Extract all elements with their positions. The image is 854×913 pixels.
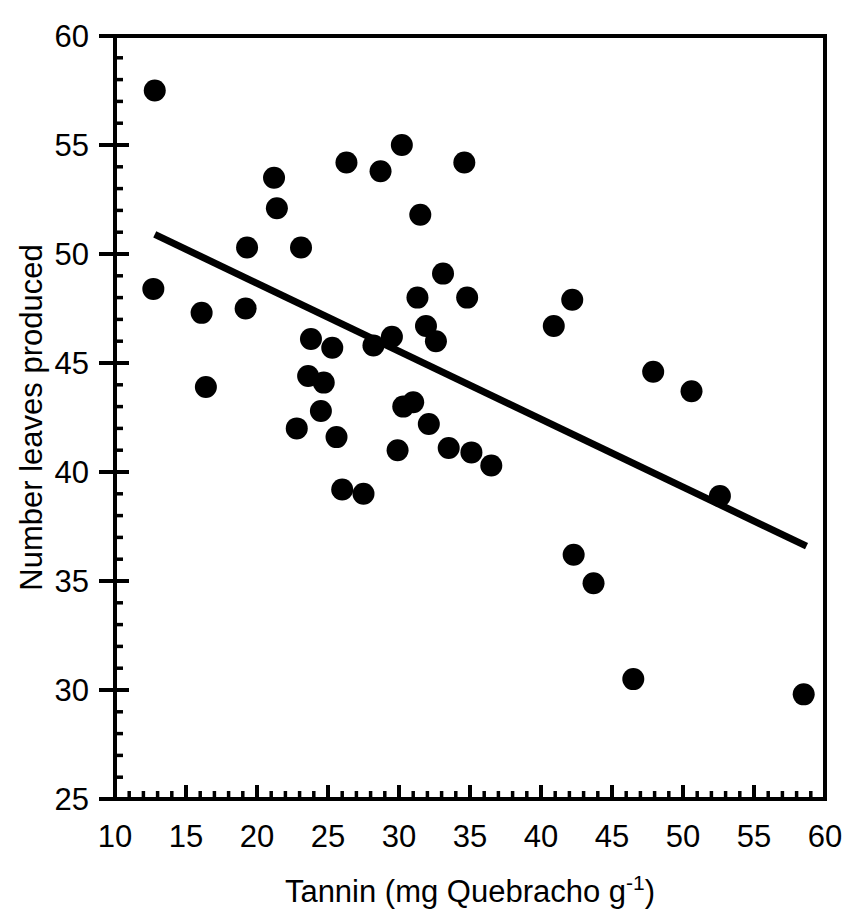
data-point xyxy=(543,315,565,337)
data-point xyxy=(409,204,431,226)
data-point xyxy=(793,683,815,705)
data-point xyxy=(236,236,258,258)
data-point xyxy=(402,391,424,413)
data-point xyxy=(622,668,644,690)
data-point xyxy=(142,278,164,300)
data-point xyxy=(425,330,447,352)
data-point xyxy=(191,302,213,324)
data-point xyxy=(370,160,392,182)
data-point xyxy=(432,263,454,285)
x-tick-label: 30 xyxy=(382,819,416,854)
data-point xyxy=(263,167,285,189)
y-tick-label: 55 xyxy=(55,128,89,163)
data-point xyxy=(709,485,731,507)
x-tick-label: 20 xyxy=(240,819,274,854)
data-point xyxy=(321,337,343,359)
data-point xyxy=(144,80,166,102)
trendline-segment xyxy=(155,234,807,546)
data-point xyxy=(310,400,332,422)
x-tick-label: 40 xyxy=(524,819,558,854)
x-tick-label: 50 xyxy=(666,819,700,854)
data-point xyxy=(480,454,502,476)
x-tick-label: 25 xyxy=(311,819,345,854)
plot-frame xyxy=(115,36,825,799)
x-tick-label: 10 xyxy=(98,819,132,854)
data-point xyxy=(456,287,478,309)
data-point xyxy=(583,572,605,594)
y-tick-label: 40 xyxy=(55,455,89,490)
plot-border xyxy=(115,36,825,799)
y-tick-label: 50 xyxy=(55,237,89,272)
x-axis-title: Tannin (mg Quebracho g-1) xyxy=(285,871,655,909)
data-point xyxy=(438,437,460,459)
scatter-plot-figure: 10152025303540455055602530354045505560 T… xyxy=(0,0,854,913)
data-point xyxy=(326,426,348,448)
data-point xyxy=(331,478,353,500)
y-tick-label: 35 xyxy=(55,564,89,599)
x-tick-label: 15 xyxy=(169,819,203,854)
data-point xyxy=(353,483,375,505)
data-point xyxy=(681,380,703,402)
axis-ticks xyxy=(99,36,825,799)
y-tick-label: 30 xyxy=(55,673,89,708)
data-point xyxy=(235,298,257,320)
data-point xyxy=(300,328,322,350)
data-point xyxy=(381,326,403,348)
data-point xyxy=(266,197,288,219)
data-point xyxy=(406,287,428,309)
data-point xyxy=(335,151,357,173)
plot-canvas: 10152025303540455055602530354045505560 T… xyxy=(0,0,854,913)
data-point xyxy=(460,441,482,463)
data-point xyxy=(195,376,217,398)
data-point xyxy=(391,134,413,156)
data-point xyxy=(453,151,475,173)
x-tick-label: 55 xyxy=(737,819,771,854)
x-tick-label: 60 xyxy=(808,819,842,854)
data-point xyxy=(563,544,585,566)
y-axis-title: Number leaves produced xyxy=(14,244,49,590)
y-tick-label: 25 xyxy=(55,782,89,817)
regression-line xyxy=(155,234,807,546)
y-tick-label: 45 xyxy=(55,346,89,381)
data-point xyxy=(313,372,335,394)
data-point xyxy=(561,289,583,311)
data-point xyxy=(286,417,308,439)
data-point xyxy=(642,361,664,383)
x-tick-label: 45 xyxy=(595,819,629,854)
data-point xyxy=(290,236,312,258)
x-tick-label: 35 xyxy=(453,819,487,854)
axis-tick-labels: 10152025303540455055602530354045505560 xyxy=(55,19,843,854)
data-point xyxy=(387,439,409,461)
y-tick-label: 60 xyxy=(55,19,89,54)
data-point xyxy=(418,413,440,435)
